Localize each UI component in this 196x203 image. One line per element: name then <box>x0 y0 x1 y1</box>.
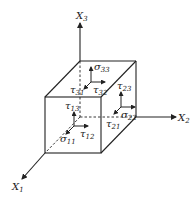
x1-label: X1 <box>11 181 24 194</box>
tau-12-label: τ12 <box>80 128 95 141</box>
tau-13-label: τ13 <box>65 100 80 113</box>
x3-label: X3 <box>75 10 88 23</box>
sigma-22-label: σ22 <box>121 109 137 122</box>
stress-cube-diagram: X3 X2 X1 σ33 τ32 τ31 τ23 σ22 τ21 τ13 τ12… <box>0 0 196 203</box>
tau-31-label: τ31 <box>70 84 84 97</box>
sigma-33-label: σ33 <box>94 61 110 74</box>
sigma-11-label: σ11 <box>60 133 76 146</box>
tau-32-label: τ32 <box>93 84 108 97</box>
x2-label: X2 <box>177 112 190 125</box>
x1-axis <box>22 153 45 179</box>
tau-21-label: τ21 <box>106 118 120 131</box>
tau-23-label: τ23 <box>117 80 132 93</box>
